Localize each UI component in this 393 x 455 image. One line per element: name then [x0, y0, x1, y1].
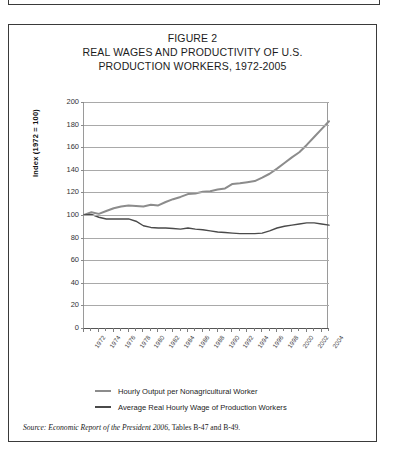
gridline: [84, 215, 329, 216]
x-tick-mark: [83, 328, 84, 332]
x-tick-mark: [217, 328, 218, 332]
x-tick-label: 1996: [271, 334, 285, 349]
x-tick-mark: [180, 328, 181, 331]
x-tick-mark: [128, 328, 129, 332]
x-tick-mark: [142, 328, 143, 332]
line-productivity: [84, 121, 329, 215]
x-tick-mark: [194, 328, 195, 331]
x-tick-mark: [321, 328, 322, 332]
x-tick-label: 2000: [301, 334, 315, 349]
y-tick-mark: [81, 170, 84, 171]
y-tick-mark: [81, 215, 84, 216]
x-tick-mark: [246, 328, 247, 332]
gridline: [84, 238, 329, 239]
x-tick-label: 2002: [316, 334, 330, 349]
y-tick-mark: [81, 305, 84, 306]
x-tick-mark: [261, 328, 262, 332]
x-tick-mark: [306, 328, 307, 332]
x-tick-mark: [202, 328, 203, 332]
x-tick-label: 1992: [241, 334, 255, 349]
x-tick-mark: [113, 328, 114, 332]
x-tick-mark: [187, 328, 188, 332]
x-tick-mark: [165, 328, 166, 331]
x-tick-label: 1982: [167, 334, 181, 349]
x-tick-label: 1990: [226, 334, 240, 349]
x-tick-label: 1980: [152, 334, 166, 349]
y-tick-label: 180: [39, 120, 79, 129]
legend-item-wage: Average Real Hourly Wage of Production W…: [95, 399, 287, 415]
y-tick-mark: [81, 260, 84, 261]
x-tick-mark: [120, 328, 121, 331]
y-tick-label: 200: [39, 97, 79, 106]
x-tick-mark: [313, 328, 314, 331]
x-tick-mark: [224, 328, 225, 331]
chart: Index (1972 = 100) 020406080100120140160…: [9, 25, 378, 443]
y-tick-label: 40: [39, 278, 79, 287]
x-tick-label: 2004: [330, 334, 344, 349]
gridline: [84, 125, 329, 126]
y-tick-mark: [81, 192, 84, 193]
y-tick-mark: [81, 147, 84, 148]
x-tick-mark: [98, 328, 99, 332]
x-tick-mark: [269, 328, 270, 331]
previous-figure-box-edge: [8, 0, 380, 5]
y-tick-label: 120: [39, 187, 79, 196]
x-tick-mark: [298, 328, 299, 331]
x-tick-mark: [157, 328, 158, 332]
x-tick-label: 1986: [197, 334, 211, 349]
figure-container: FIGURE 2 REAL WAGES AND PRODUCTIVITY OF …: [8, 24, 377, 442]
y-tick-label: 20: [39, 300, 79, 309]
legend-swatch-wage: [95, 406, 111, 408]
legend-label-wage: Average Real Hourly Wage of Production W…: [118, 403, 287, 412]
y-tick-label: 140: [39, 165, 79, 174]
gridline: [84, 102, 329, 103]
x-tick-label: 1988: [212, 334, 226, 349]
source-publication: Economic Report of the President 2006: [48, 423, 168, 432]
x-tick-mark: [135, 328, 136, 331]
x-tick-mark: [328, 328, 329, 331]
y-tick-label: 0: [39, 323, 79, 332]
y-axis-label: Index (1972 = 100): [31, 57, 40, 177]
y-tick-label: 100: [39, 210, 79, 219]
x-tick-mark: [291, 328, 292, 332]
x-tick-mark: [239, 328, 240, 331]
gridline: [84, 283, 329, 284]
y-tick-mark: [81, 102, 84, 103]
legend-label-productivity: Hourly Output per Nonagricultural Worker: [118, 387, 258, 396]
x-tick-mark: [231, 328, 232, 332]
source-note: Source: Economic Report of the President…: [23, 423, 240, 432]
y-tick-label: 160: [39, 142, 79, 151]
gridline: [84, 147, 329, 148]
x-tick-mark: [283, 328, 284, 331]
gridline: [84, 260, 329, 261]
legend-item-productivity: Hourly Output per Nonagricultural Worker: [95, 383, 287, 399]
x-tick-label: 1994: [256, 334, 270, 349]
y-tick-mark: [81, 238, 84, 239]
x-tick-label: 1972: [93, 334, 107, 349]
line-wage: [84, 214, 329, 233]
x-tick-mark: [276, 328, 277, 332]
legend-swatch-productivity: [95, 390, 111, 393]
x-tick-label: 1974: [108, 334, 122, 349]
y-tick-label: 60: [39, 255, 79, 264]
x-tick-label: 1976: [123, 334, 137, 349]
x-tick-mark: [105, 328, 106, 331]
gridline: [84, 305, 329, 306]
y-tick-mark: [81, 125, 84, 126]
gridline: [84, 170, 329, 171]
x-tick-mark: [254, 328, 255, 331]
y-tick-label: 80: [39, 233, 79, 242]
x-tick-label: 1984: [182, 334, 196, 349]
x-tick-label: 1978: [137, 334, 151, 349]
plot-area: 020406080100120140160180200: [83, 102, 328, 328]
x-tick-mark: [209, 328, 210, 331]
x-tick-mark: [172, 328, 173, 332]
source-tables: , Tables B-47 and B-49.: [168, 423, 240, 432]
x-tick-mark: [150, 328, 151, 331]
y-tick-mark: [81, 283, 84, 284]
x-tick-mark: [90, 328, 91, 331]
source-prefix: Source:: [23, 423, 46, 432]
x-tick-label: 1998: [286, 334, 300, 349]
legend: Hourly Output per Nonagricultural Worker…: [95, 383, 287, 415]
gridline: [84, 192, 329, 193]
